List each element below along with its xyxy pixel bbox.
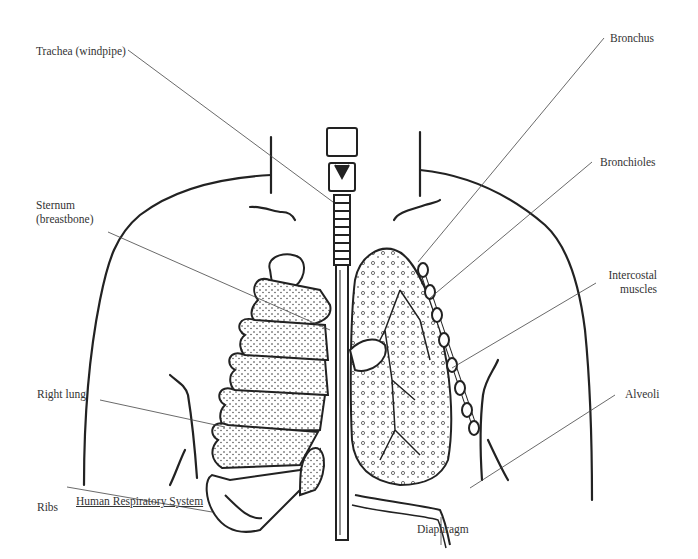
left-lung-drawing [350,249,479,548]
label-intercostal-line2: muscles [606,282,657,296]
label-intercostal-muscles: Intercostal muscles [606,268,657,296]
diagram-title: Human Respiratory System [76,495,203,507]
label-sternum-line2: (breastbone) [36,212,93,226]
label-sternum-line1: Sternum [36,198,93,212]
label-bronchioles: Bronchioles [600,155,656,169]
label-intercostal-line1: Intercostal [606,268,657,282]
respiratory-diagram-art [0,0,698,559]
label-trachea: Trachea (windpipe) [36,44,126,58]
label-sternum: Sternum (breastbone) [36,198,93,226]
label-ribs: Ribs [37,500,58,514]
label-alveoli: Alveoli [625,387,660,401]
label-diaphragm: Diaphragm [417,522,469,536]
right-lung-ribs-drawing [207,254,331,532]
label-right-lung: Right lung [37,387,86,401]
label-bronchus: Bronchus [610,31,654,45]
